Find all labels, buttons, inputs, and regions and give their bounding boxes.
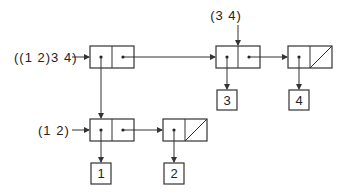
svg-text:1: 1	[97, 166, 104, 181]
atom-1-box: 1	[91, 163, 111, 184]
atom-2-box: 2	[164, 163, 184, 184]
atom-3-box: 3	[217, 90, 237, 110]
outer-list-label: ((1 2)3 4)	[14, 50, 77, 65]
atom-4-box: 4	[289, 90, 309, 110]
cons-cell-2	[163, 119, 207, 141]
cons-cell-4	[288, 46, 332, 68]
cons-diagram: ((1 2)3 4) (3 4) (1 2)	[0, 0, 344, 195]
sublist-12-label: (1 2)	[38, 123, 70, 138]
svg-text:2: 2	[170, 166, 177, 181]
sublist-34-label: (3 4)	[210, 8, 242, 23]
svg-text:4: 4	[295, 93, 302, 108]
svg-text:3: 3	[223, 93, 230, 108]
